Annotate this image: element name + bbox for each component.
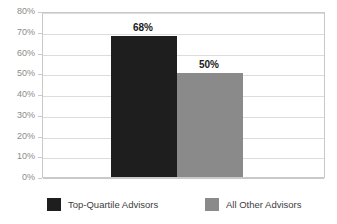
y-axis-tick-label: 50% — [1, 69, 35, 78]
y-axis-tick-label: 10% — [1, 152, 35, 161]
legend-label: All Other Advisors — [226, 199, 302, 210]
gridline — [43, 34, 324, 35]
gridline — [43, 13, 324, 14]
gridline — [43, 178, 324, 179]
bar-value-label: 50% — [176, 60, 242, 70]
y-axis-tick-label: 40% — [1, 90, 35, 99]
y-axis-tick-label: 80% — [1, 7, 35, 16]
bar-value-label: 68% — [110, 23, 176, 33]
legend-item-top-quartile-advisors[interactable]: Top-Quartile Advisors — [47, 196, 158, 212]
plot-area — [42, 12, 325, 178]
bar-chart: 80%70%60%50%40%30%20%10%0% 68%50% Top-Qu… — [0, 0, 337, 224]
y-axis-tick-label: 70% — [1, 28, 35, 37]
legend-item-all-other-advisors[interactable]: All Other Advisors — [205, 196, 302, 212]
bar-top-quartile-advisors[interactable] — [111, 36, 177, 177]
y-axis-tick-label: 20% — [1, 132, 35, 141]
y-axis-tick-label: 60% — [1, 49, 35, 58]
y-axis-tick-label: 0% — [1, 173, 35, 182]
chart-legend: Top-Quartile Advisors All Other Advisors — [0, 196, 337, 216]
y-axis-tick-label: 30% — [1, 111, 35, 120]
bar-all-other-advisors[interactable] — [177, 73, 243, 177]
legend-label: Top-Quartile Advisors — [68, 199, 158, 210]
gridline — [43, 55, 324, 56]
legend-swatch-icon — [205, 198, 219, 211]
legend-swatch-icon — [47, 198, 61, 211]
y-axis-tick-mark — [38, 178, 42, 179]
